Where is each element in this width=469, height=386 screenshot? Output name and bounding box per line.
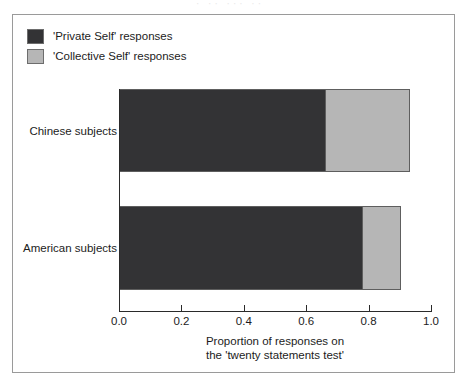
x-axis-tick (431, 305, 432, 312)
legend-swatch-collective-self-icon (27, 49, 44, 64)
x-axis-tick (181, 305, 182, 312)
x-axis-tick (369, 305, 370, 312)
legend-item-collective-self: 'Collective Self' responses (27, 47, 187, 66)
x-axis-line (119, 311, 432, 312)
bar-segment-private-self[interactable] (120, 206, 363, 290)
x-axis-title-line-2: the 'twenty statements test' (119, 349, 431, 363)
x-axis-tick-label: 0.6 (298, 315, 314, 327)
bar-group (120, 89, 432, 172)
x-axis-tick-label: 0.4 (236, 315, 252, 327)
legend-swatch-private-self-icon (27, 29, 44, 44)
x-axis-title-line-1: Proportion of responses on (119, 335, 431, 349)
x-axis-tick (244, 305, 245, 312)
bar-segment-collective-self[interactable] (326, 89, 410, 172)
x-axis-tick-label: 0.8 (361, 315, 377, 327)
legend-label-collective-self: 'Collective Self' responses (53, 50, 187, 63)
x-axis-title: Proportion of responses on the 'twenty s… (119, 335, 431, 362)
plot-area: 0.00.20.40.60.81.0 Chinese subjectsAmeri… (119, 89, 431, 311)
y-axis-category-label: American subjects (23, 242, 117, 254)
bar-group (120, 206, 432, 290)
legend-label-private-self: 'Private Self' responses (53, 30, 172, 43)
x-axis-tick-label: 0.2 (173, 315, 189, 327)
x-axis-tick (119, 305, 120, 312)
bar-segment-collective-self[interactable] (363, 206, 400, 290)
figure-frame: 'Private Self' responses 'Collective Sel… (12, 14, 455, 373)
page-scan-artifact: · ·· ··· ·· (196, 0, 366, 10)
x-axis-tick (306, 305, 307, 312)
y-axis-category-label: Chinese subjects (29, 125, 117, 137)
chart-legend: 'Private Self' responses 'Collective Sel… (27, 27, 187, 67)
x-axis-tick-label: 0.0 (111, 315, 127, 327)
x-axis-tick-label: 1.0 (423, 315, 439, 327)
bar-segment-private-self[interactable] (120, 89, 326, 172)
legend-item-private-self: 'Private Self' responses (27, 27, 187, 46)
